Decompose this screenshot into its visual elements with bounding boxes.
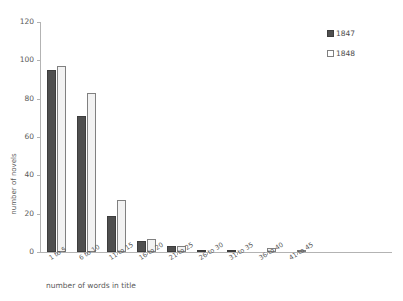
- legend-item-1847[interactable]: 1847: [327, 28, 355, 39]
- y-axis-tick-mark: [37, 99, 40, 100]
- legend-swatch-icon: [327, 50, 334, 57]
- y-axis-tick-mark: [37, 252, 40, 253]
- bar-1848-6-to-10: [87, 93, 96, 252]
- bar-group: [167, 22, 187, 252]
- bar-1847-11-to-15: [107, 216, 116, 252]
- y-axis-tick-label: 0: [0, 248, 34, 256]
- x-axis-title: number of words in title: [46, 281, 136, 290]
- bar-group: [287, 22, 307, 252]
- y-axis-tick-mark: [37, 175, 40, 176]
- bar-1847-6-to-10: [77, 116, 86, 252]
- y-axis-tick-label: 120: [0, 18, 34, 26]
- bar-chart: 020406080100120 number of novels 1 to 56…: [0, 0, 403, 301]
- y-axis-tick-mark: [37, 60, 40, 61]
- legend-item-label: 1848: [336, 50, 355, 58]
- legend-item-1848[interactable]: 1848: [327, 48, 355, 59]
- legend-swatch-icon: [327, 30, 334, 37]
- bar-group: [227, 22, 247, 252]
- bar-group: [257, 22, 277, 252]
- bar-1848-1-to-5: [57, 66, 66, 252]
- y-axis-tick-label: 100: [0, 56, 34, 64]
- y-axis-tick-mark: [37, 137, 40, 138]
- chart-legend: 18471848: [327, 28, 355, 68]
- y-axis-tick-label: 80: [0, 95, 34, 103]
- y-axis-tick-mark: [37, 214, 40, 215]
- bar-group: [47, 22, 67, 252]
- y-axis-title: number of novels: [10, 134, 18, 234]
- bar-group: [107, 22, 127, 252]
- legend-item-label: 1847: [336, 30, 355, 38]
- y-axis-tick-mark: [37, 22, 40, 23]
- bar-group: [197, 22, 217, 252]
- bar-group: [137, 22, 157, 252]
- bar-group: [77, 22, 97, 252]
- bar-1847-1-to-5: [47, 70, 56, 252]
